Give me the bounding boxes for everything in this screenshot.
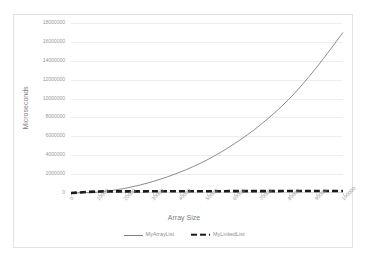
chart-container: Microseconds 020000004000000600000080000… [13, 14, 353, 248]
legend-label: MyArrayList [146, 232, 174, 237]
plot-area [71, 23, 343, 193]
y-axis-tick-label: 0 [62, 190, 65, 195]
x-axis-tick-label: 0 [69, 196, 75, 202]
x-axis-tick-label: 100000 [341, 186, 357, 202]
y-axis-tick-label: 14000000 [43, 58, 65, 63]
y-axis-title: Microseconds [22, 86, 29, 129]
y-axis-tick-label: 18000000 [43, 20, 65, 25]
series-layer [71, 23, 343, 193]
y-axis-tick-label: 10000000 [43, 96, 65, 101]
y-axis-tick-label: 12000000 [43, 77, 65, 82]
y-axis-tick-label: 6000000 [46, 134, 66, 139]
series-line-myarraylist [71, 32, 343, 193]
y-axis-tick-label: 8000000 [46, 115, 66, 120]
legend-swatch-solid-line-icon [124, 233, 143, 237]
legend-label: MyLinkedList [213, 232, 244, 237]
legend-item-myarraylist[interactable]: MyArrayList [124, 232, 174, 237]
y-axis-tick-label: 4000000 [46, 153, 66, 158]
chart-legend: MyArrayList MyLinkedList [14, 232, 354, 237]
y-axis-tick-label: 16000000 [43, 39, 65, 44]
legend-item-mylinkedlist[interactable]: MyLinkedList [191, 232, 244, 237]
legend-swatch-dashed-line-icon [191, 233, 210, 237]
x-axis-title: Array Size [14, 214, 354, 221]
y-axis-tick-label: 2000000 [46, 172, 66, 177]
